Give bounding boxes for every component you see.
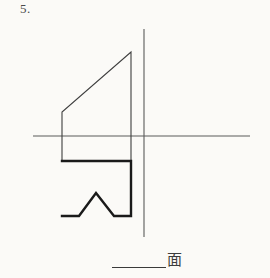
front-view-outline [62,52,131,161]
answer-blank-line[interactable] [112,267,166,268]
drawing-page: 5. 面 [0,0,270,278]
top-view-outline [62,161,131,216]
caption-label: 面 [167,252,182,269]
technical-drawing-canvas [0,0,270,278]
caption-row: 面 [112,252,232,274]
